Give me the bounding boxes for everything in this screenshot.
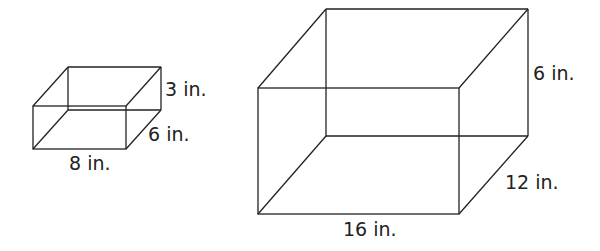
- large-width-label: 12 in.: [505, 171, 559, 193]
- large-length-label: 16 in.: [343, 218, 397, 240]
- small-box: 3 in. 6 in. 8 in.: [33, 67, 207, 174]
- small-top-left-depth-edge: [33, 67, 68, 106]
- small-top-right-depth-edge: [126, 67, 161, 106]
- large-front-face: [258, 88, 459, 214]
- small-length-label: 8 in.: [69, 152, 111, 174]
- large-height-label: 6 in.: [533, 62, 575, 84]
- large-bottom-left-depth-edge: [258, 136, 326, 214]
- large-top-left-depth-edge: [258, 9, 326, 88]
- large-top-right-depth-edge: [459, 9, 528, 88]
- small-width-label: 6 in.: [148, 123, 190, 145]
- small-height-label: 3 in.: [165, 78, 207, 100]
- small-bottom-left-depth-edge: [33, 110, 68, 149]
- large-box: 6 in. 12 in. 16 in.: [258, 9, 575, 240]
- small-front-face: [33, 106, 126, 149]
- prisms-diagram: 3 in. 6 in. 8 in. 6 in. 12 in. 16 in.: [0, 0, 600, 251]
